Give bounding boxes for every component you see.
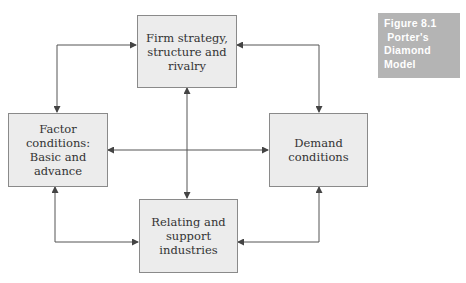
node-factor-line1: Factor conditions: bbox=[13, 122, 103, 150]
figure-caption: Figure 8.1 Porter's Diamond Model bbox=[378, 13, 460, 78]
figure-caption-line4: Model bbox=[384, 58, 454, 72]
arrow-factor-relating bbox=[55, 187, 138, 242]
figure-caption-line3: Diamond bbox=[384, 44, 454, 58]
node-factor-line2: Basic and advance bbox=[13, 150, 103, 178]
node-demand-conditions: Demand conditions bbox=[269, 113, 368, 187]
node-firm-line1: Firm strategy, bbox=[146, 31, 228, 45]
node-firm-line2: structure and bbox=[146, 45, 228, 59]
node-factor-conditions: Factor conditions: Basic and advance bbox=[8, 113, 108, 187]
node-demand-line1: Demand conditions bbox=[274, 136, 363, 164]
node-relating-support: Relating and support industries bbox=[139, 199, 238, 273]
figure-caption-line1: Figure 8.1 bbox=[384, 17, 454, 31]
node-firm-line3: rivalry bbox=[146, 59, 228, 73]
figure-caption-line2: Porter's bbox=[384, 31, 454, 45]
node-relating-line1: Relating and bbox=[144, 215, 233, 229]
arrow-firm-demand bbox=[237, 45, 319, 112]
arrow-demand-relating bbox=[238, 187, 319, 242]
node-firm-strategy: Firm strategy, structure and rivalry bbox=[137, 15, 237, 88]
arrow-firm-factor bbox=[57, 45, 136, 112]
node-relating-line2: support industries bbox=[144, 229, 233, 257]
